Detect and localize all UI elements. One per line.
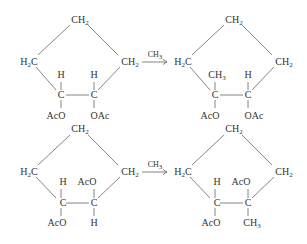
atom-right: CH2 xyxy=(121,167,138,177)
c1-down: AcO xyxy=(202,218,221,228)
atom-right: CH2 xyxy=(275,167,292,177)
atom-left: H2C xyxy=(174,167,191,177)
ring-1a-bonds xyxy=(36,25,120,108)
c1-up: CH3 xyxy=(208,70,225,80)
c2-down: H xyxy=(90,218,97,228)
atom-top: CH2 xyxy=(71,15,88,25)
c1-up: H xyxy=(59,177,66,187)
atom-top: CH2 xyxy=(225,124,242,134)
c1: C xyxy=(214,198,221,208)
c2-down: OAc xyxy=(245,111,264,121)
c1: C xyxy=(60,198,67,208)
c2-down: OAc xyxy=(91,111,110,121)
reagent-2: CH3 xyxy=(148,160,163,170)
atom-right: CH2 xyxy=(121,57,138,67)
atom-top: CH2 xyxy=(225,15,242,25)
c2: C xyxy=(245,198,252,208)
atom-left: H2C xyxy=(20,167,37,177)
atom-top: CH2 xyxy=(71,124,88,134)
reagent-1: CH3 xyxy=(148,50,163,60)
atom-left: H2C xyxy=(174,57,191,67)
atom-left: H2C xyxy=(20,57,37,67)
c1: C xyxy=(212,90,219,100)
c1-up: H xyxy=(213,177,220,187)
c2-up: H xyxy=(244,70,251,80)
c1-down: AcO xyxy=(201,111,220,121)
c1-up: H xyxy=(57,70,64,80)
atom-right: CH2 xyxy=(275,57,292,67)
c2-up: AcO xyxy=(232,177,251,187)
c1-down: AcO xyxy=(48,218,67,228)
c1-down: AcO xyxy=(47,111,66,121)
ring-1b-bonds xyxy=(190,25,274,108)
c2-up: H xyxy=(90,70,97,80)
bond-lines xyxy=(0,0,307,244)
c2: C xyxy=(245,90,252,100)
c2: C xyxy=(91,90,98,100)
c1: C xyxy=(58,90,65,100)
c2: C xyxy=(91,198,98,208)
c2-up: AcO xyxy=(78,177,97,187)
c2-down: CH3 xyxy=(243,218,260,228)
